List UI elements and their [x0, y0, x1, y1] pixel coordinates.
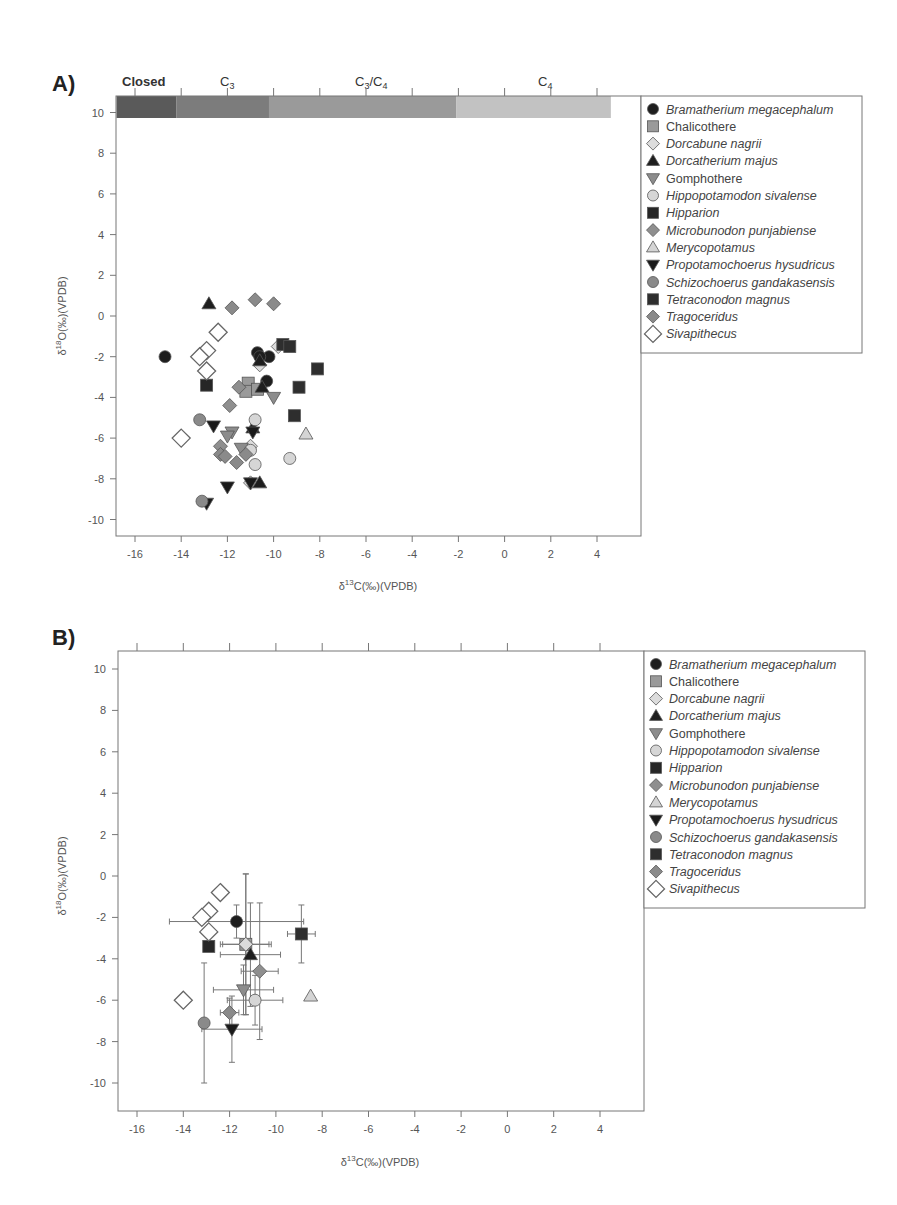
- vegetation-bands: [117, 96, 611, 118]
- legend-item-label: Hippopotamodon sivalense: [666, 189, 817, 203]
- y-tick-label: 8: [98, 147, 104, 159]
- circle-marker-icon: [284, 452, 296, 464]
- y-tick-label: -2: [94, 351, 104, 363]
- x-tick-label: -2: [454, 548, 464, 560]
- vegetation-band-labels: Closed C3 C3/C4 C4: [122, 74, 552, 91]
- triangle-down-marker-icon: [207, 421, 221, 433]
- legend-item-label: Merycopotamus: [669, 796, 758, 810]
- legend-b: Bramatherium megacephalumChalicothereDor…: [644, 651, 865, 908]
- x-tick-label: -10: [268, 1123, 284, 1135]
- figure: A) Closed C3 C3/C4 C4 -16-14-12-10-8-6-4…: [0, 0, 897, 1205]
- y-tick-label: -10: [90, 1077, 106, 1089]
- panel-b: B) -16-14-12-10-8-6-4-2024-10-8-6-4-2024…: [52, 625, 865, 1168]
- x-tick-label: -8: [315, 548, 325, 560]
- circle-marker-icon: [249, 994, 261, 1006]
- x-tick-label: 2: [548, 548, 554, 560]
- diamond-marker-icon: [174, 991, 192, 1009]
- legend-item-label: Gomphothere: [666, 172, 742, 186]
- y-tick-label: -6: [96, 994, 106, 1006]
- square-marker-icon: [651, 676, 662, 687]
- circle-marker-icon: [648, 104, 659, 115]
- circle-marker-icon: [651, 745, 662, 756]
- panel-a: A) Closed C3 C3/C4 C4 -16-14-12-10-8-6-4…: [52, 71, 862, 592]
- vegetation-band-c4: [456, 96, 611, 118]
- circle-marker-icon: [249, 414, 261, 426]
- legend-item-label: Gomphothere: [669, 727, 745, 741]
- y-tick-label: -8: [96, 1036, 106, 1048]
- error-bars-b: [169, 874, 315, 1083]
- y-tick-label: 2: [100, 829, 106, 841]
- y-tick-label: 0: [100, 870, 106, 882]
- triangle-down-marker-icon: [225, 1024, 239, 1036]
- y-tick-label: 10: [92, 107, 104, 119]
- data-points-a: [159, 293, 323, 511]
- diamond-marker-icon: [223, 399, 237, 413]
- band-label-c3c4: C3/C4: [355, 74, 387, 91]
- circle-marker-icon: [651, 832, 662, 843]
- diamond-marker-icon: [211, 884, 229, 902]
- legend-item-label: Bramatherium megacephalum: [666, 103, 833, 117]
- circle-marker-icon: [196, 495, 208, 507]
- legend-item-label: Tragoceridus: [669, 865, 741, 879]
- square-marker-icon: [651, 849, 662, 860]
- legend-item-label: Bramatherium megacephalum: [669, 658, 836, 672]
- vegetation-band-c3: [177, 96, 269, 118]
- circle-marker-icon: [648, 277, 659, 288]
- triangle-up-marker-icon: [299, 427, 313, 439]
- legend-item-label: Dorcatherium majus: [669, 709, 781, 723]
- diamond-marker-icon: [248, 293, 262, 307]
- legend-item-label: Propotamochoerus hysudricus: [666, 258, 835, 272]
- legend-item-label: Sivapithecus: [666, 327, 737, 341]
- circle-marker-icon: [194, 414, 206, 426]
- y-tick-label: -2: [96, 911, 106, 923]
- circle-marker-icon: [231, 916, 243, 928]
- y-tick-label: 2: [98, 269, 104, 281]
- triangle-down-marker-icon: [267, 392, 281, 404]
- legend-item-label: Merycopotamus: [666, 241, 755, 255]
- band-label-c4: C4: [538, 74, 552, 91]
- y-tick-label: 6: [100, 746, 106, 758]
- x-tick-label: -14: [175, 1123, 191, 1135]
- y-tick-label: 4: [100, 787, 106, 799]
- circle-marker-icon: [648, 190, 659, 201]
- y-tick-label: 6: [98, 188, 104, 200]
- legend-item-label: Schizochoerus gandakasensis: [666, 276, 835, 290]
- x-tick-label: 0: [504, 1123, 510, 1135]
- square-marker-icon: [293, 381, 305, 393]
- band-label-closed: Closed: [122, 74, 165, 89]
- plot-frame: [118, 651, 644, 1111]
- x-tick-label: 2: [551, 1123, 557, 1135]
- y-tick-label: 4: [98, 229, 104, 241]
- diamond-marker-icon: [225, 301, 239, 315]
- legend-item-label: Propotamochoerus hysudricus: [669, 813, 838, 827]
- triangle-up-marker-icon: [304, 989, 318, 1001]
- square-marker-icon: [311, 363, 323, 375]
- legend-item-label: Schizochoerus gandakasensis: [669, 831, 838, 845]
- legend-item-label: Chalicothere: [669, 675, 739, 689]
- x-tick-label: -6: [364, 1123, 374, 1135]
- triangle-down-marker-icon: [220, 482, 234, 494]
- square-marker-icon: [201, 379, 213, 391]
- legend-item-label: Sivapithecus: [669, 882, 740, 896]
- panel-b-label: B): [52, 625, 75, 650]
- legend-item-label: Chalicothere: [666, 120, 736, 134]
- legend-item-label: Hippopotamodon sivalense: [669, 744, 820, 758]
- x-tick-label: 4: [594, 548, 600, 560]
- axes-b: -16-14-12-10-8-6-4-2024-10-8-6-4-2024681…: [90, 643, 644, 1135]
- circle-marker-icon: [159, 351, 171, 363]
- circle-marker-icon: [198, 1017, 210, 1029]
- square-marker-icon: [648, 294, 659, 305]
- diamond-marker-icon: [209, 323, 227, 341]
- square-marker-icon: [284, 341, 296, 353]
- y-axis-title-a: δ18O(‰)(VPDB): [54, 276, 68, 355]
- circle-marker-icon: [249, 459, 261, 471]
- x-tick-label: -6: [361, 548, 371, 560]
- x-axis-title-b: δ13C(‰)(VPDB): [341, 1154, 420, 1168]
- legend-item-label: Hipparion: [669, 761, 723, 775]
- square-marker-icon: [295, 928, 307, 940]
- x-tick-label: -2: [456, 1123, 466, 1135]
- plot-frame: [116, 96, 641, 536]
- x-axis-title-a: δ13C(‰)(VPDB): [339, 578, 418, 592]
- triangle-down-marker-icon: [236, 985, 250, 997]
- y-tick-label: -6: [94, 432, 104, 444]
